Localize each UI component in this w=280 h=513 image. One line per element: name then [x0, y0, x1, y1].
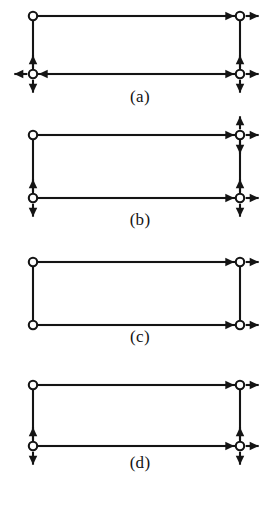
- panel-c-node-top-left: [29, 258, 37, 266]
- figure-panel-b: (b): [0, 118, 280, 240]
- panel-a-rectangle-frame: [33, 16, 240, 74]
- arrow-right-icon: [246, 194, 259, 203]
- figure-root: (a) (b) (c) (d): [0, 0, 280, 513]
- figure-panel-a: (a): [0, 0, 280, 118]
- panel-d-node-top-left: [29, 381, 37, 389]
- panel-d-rectangle-frame: [33, 385, 240, 446]
- panel-d-node-bottom-right: [236, 442, 244, 450]
- panel-a-node-bottom-left: [29, 70, 37, 78]
- edge-barb-left-icon: [225, 381, 234, 390]
- edge-barb-left-icon: [225, 70, 234, 79]
- arrow-up-icon: [29, 55, 38, 68]
- figure-panel-d: (d): [0, 358, 280, 513]
- panel-c-caption: (c): [0, 328, 280, 345]
- panel-b-node-top-left: [29, 131, 37, 139]
- arrow-up-icon: [29, 179, 38, 192]
- arrow-up-icon: [29, 427, 38, 440]
- figure-panel-c: (c): [0, 240, 280, 358]
- panel-d-diagram: [0, 358, 280, 513]
- edge-barb-left-icon: [225, 131, 234, 140]
- arrow-up-icon: [236, 179, 245, 192]
- arrow-right-icon: [246, 442, 259, 451]
- panel-a-node-top-right: [236, 12, 244, 20]
- panel-c-rectangle-frame: [33, 262, 240, 325]
- arrow-right-icon: [246, 381, 259, 390]
- panel-d-caption: (d): [0, 454, 280, 471]
- arrow-up-icon: [236, 427, 245, 440]
- panel-d-node-top-right: [236, 381, 244, 389]
- edge-barb-left-icon: [225, 194, 234, 203]
- arrow-left-icon: [14, 70, 27, 79]
- arrow-up-icon: [236, 116, 245, 129]
- edge-barb-left-icon: [225, 442, 234, 451]
- edge-barb-left-icon: [225, 12, 234, 21]
- arrow-right-icon: [246, 131, 259, 140]
- arrow-right-icon: [246, 70, 259, 79]
- panel-c-node-top-right: [236, 258, 244, 266]
- arrow-down-icon: [236, 141, 245, 154]
- arrow-right-icon: [246, 258, 259, 267]
- panel-d-node-bottom-left: [29, 442, 37, 450]
- panel-b-caption: (b): [0, 211, 280, 228]
- panel-b-node-bottom-left: [29, 194, 37, 202]
- edge-barb-left-icon: [225, 258, 234, 267]
- panel-a-caption: (a): [0, 88, 280, 105]
- panel-b-rectangle-frame: [33, 135, 240, 198]
- edge-barb-right-icon: [39, 70, 48, 79]
- panel-b-node-bottom-right: [236, 194, 244, 202]
- panel-b-node-top-right: [236, 131, 244, 139]
- arrow-right-icon: [246, 12, 259, 21]
- panel-a-node-top-left: [29, 12, 37, 20]
- arrow-up-icon: [236, 55, 245, 68]
- panel-a-node-bottom-right: [236, 70, 244, 78]
